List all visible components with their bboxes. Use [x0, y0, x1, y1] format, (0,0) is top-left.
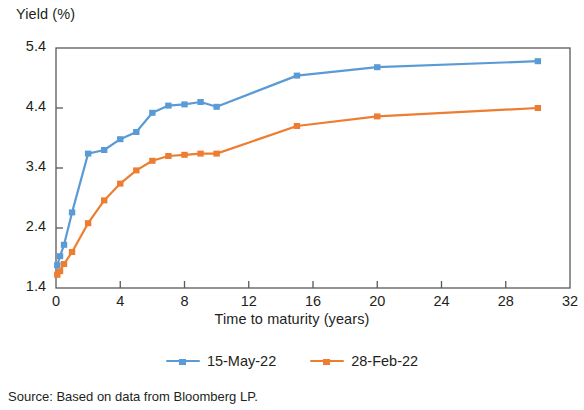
data-point-marker	[85, 151, 91, 157]
legend-label-series-2: 28-Feb-22	[351, 353, 418, 369]
yield-curve-figure: Yield (%) Time to maturity (years) 15-Ma…	[0, 0, 584, 410]
data-point-marker	[181, 101, 187, 107]
x-axis-tick-label: 4	[100, 293, 140, 309]
data-point-marker	[117, 181, 123, 187]
data-point-marker	[69, 209, 75, 215]
plot-area	[0, 0, 584, 410]
data-point-marker	[197, 99, 203, 105]
data-point-marker	[85, 220, 91, 226]
data-point-marker	[54, 262, 60, 268]
data-point-marker	[197, 151, 203, 157]
data-point-marker	[213, 151, 219, 157]
data-point-marker	[181, 152, 187, 158]
data-point-marker	[535, 105, 541, 111]
data-point-marker	[57, 253, 63, 259]
plot-frame	[56, 48, 570, 288]
chart-legend: 15-May-22 28-Feb-22	[0, 353, 584, 369]
data-point-marker	[374, 64, 380, 70]
data-point-marker	[57, 268, 63, 274]
data-point-marker	[149, 110, 155, 116]
data-point-marker	[535, 58, 541, 64]
legend-label-series-1: 15-May-22	[207, 353, 276, 369]
data-point-marker	[133, 167, 139, 173]
data-point-marker	[101, 197, 107, 203]
data-point-marker	[133, 129, 139, 135]
legend-item-series-1[interactable]: 15-May-22	[166, 353, 276, 369]
x-axis-tick-label: 12	[229, 293, 269, 309]
data-point-marker	[61, 242, 67, 248]
series-line-1	[57, 61, 538, 265]
data-point-marker	[165, 153, 171, 159]
x-axis-tick-label: 0	[36, 293, 76, 309]
x-axis-tick-label: 20	[357, 293, 397, 309]
legend-swatch-series-2-icon	[310, 355, 344, 367]
x-axis-tick-label: 28	[486, 293, 526, 309]
legend-swatch-series-1-icon	[166, 355, 200, 367]
data-point-marker	[117, 136, 123, 142]
source-note: Source: Based on data from Bloomberg LP.	[8, 389, 258, 404]
data-point-marker	[149, 158, 155, 164]
data-point-marker	[374, 113, 380, 119]
x-axis-tick-label: 24	[422, 293, 462, 309]
y-axis-tick-label: 5.4	[4, 38, 46, 54]
data-point-marker	[61, 261, 67, 267]
y-axis-tick-label: 2.4	[4, 218, 46, 234]
data-point-marker	[294, 123, 300, 129]
x-axis-tick-label: 8	[165, 293, 205, 309]
x-axis-title: Time to maturity (years)	[0, 311, 584, 327]
data-point-marker	[213, 104, 219, 110]
series-line-2	[57, 108, 538, 275]
y-axis-tick-label: 4.4	[4, 98, 46, 114]
y-axis-tick-label: 1.4	[4, 278, 46, 294]
data-point-marker	[294, 73, 300, 79]
data-point-marker	[69, 249, 75, 255]
y-axis-tick-label: 3.4	[4, 158, 46, 174]
data-point-marker	[101, 147, 107, 153]
x-axis-tick-label: 32	[550, 293, 584, 309]
data-point-marker	[165, 103, 171, 109]
legend-item-series-2[interactable]: 28-Feb-22	[310, 353, 418, 369]
x-axis-tick-label: 16	[293, 293, 333, 309]
